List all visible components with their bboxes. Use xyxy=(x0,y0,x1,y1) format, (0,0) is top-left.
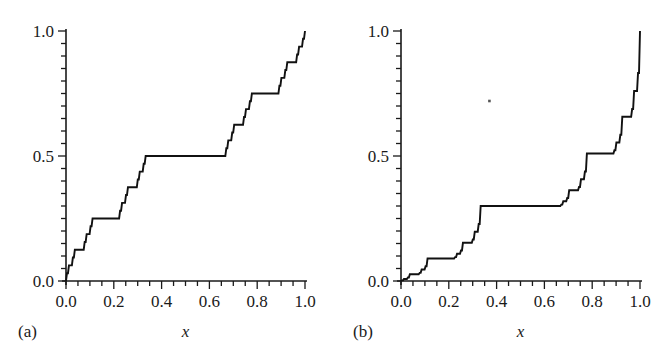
x-axis-title: x xyxy=(181,322,190,341)
x-tick-label: 0.8 xyxy=(582,292,603,311)
chart-svg-b: 0.00.20.40.60.81.00.00.51.0x(b) xyxy=(335,0,670,362)
x-tick-label: 0.4 xyxy=(151,292,173,311)
y-tick-label: 0.5 xyxy=(368,147,389,166)
y-tick-label: 0.5 xyxy=(33,147,54,166)
x-tick-label: 0.4 xyxy=(486,292,508,311)
x-tick-label: 0.8 xyxy=(247,292,268,311)
chart-panel-a: 0.00.20.40.60.81.00.00.51.0x(a) xyxy=(0,0,335,362)
x-tick-label: 1.0 xyxy=(629,292,650,311)
panel-label: (b) xyxy=(353,322,373,341)
x-tick-label: 0.0 xyxy=(55,292,76,311)
x-tick-label: 1.0 xyxy=(294,292,315,311)
panel-label: (a) xyxy=(18,322,37,341)
y-tick-label: 0.0 xyxy=(368,272,389,291)
x-tick-label: 0.2 xyxy=(438,292,459,311)
y-tick-label: 1.0 xyxy=(33,22,54,41)
y-tick-label: 0.0 xyxy=(33,272,54,291)
figure-container: 0.00.20.40.60.81.00.00.51.0x(a) 0.00.20.… xyxy=(0,0,670,362)
x-tick-label: 0.2 xyxy=(103,292,124,311)
cantor-staircase-curve xyxy=(401,31,640,281)
x-tick-label: 0.6 xyxy=(534,292,555,311)
artifact-speck xyxy=(488,100,491,103)
chart-svg-a: 0.00.20.40.60.81.00.00.51.0x(a) xyxy=(0,0,335,362)
cantor-staircase-curve xyxy=(66,31,305,281)
y-tick-label: 1.0 xyxy=(368,22,389,41)
x-tick-label: 0.6 xyxy=(199,292,220,311)
x-tick-label: 0.0 xyxy=(390,292,411,311)
chart-panel-b: 0.00.20.40.60.81.00.00.51.0x(b) xyxy=(335,0,670,362)
x-axis-title: x xyxy=(516,322,525,341)
